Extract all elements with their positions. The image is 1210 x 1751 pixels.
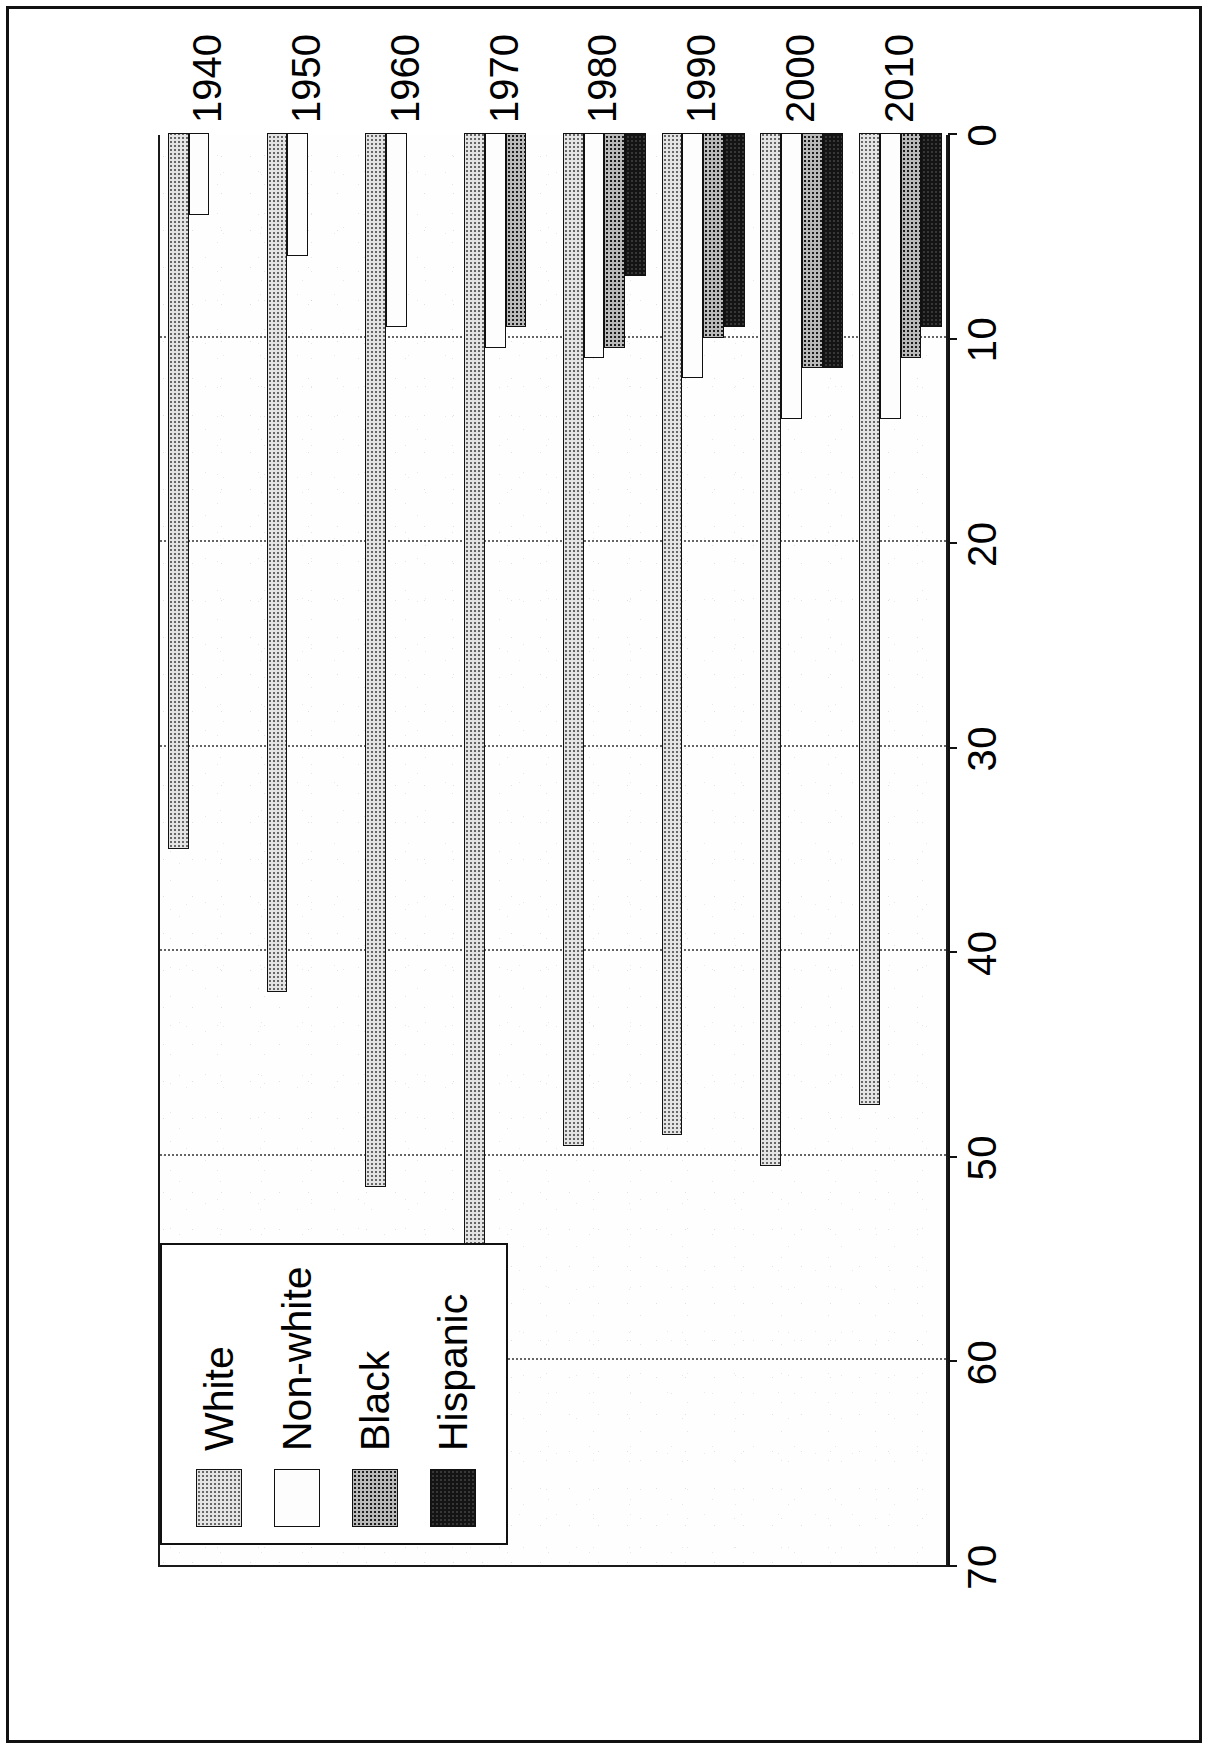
value-tick-70 xyxy=(948,1565,957,1567)
legend-row-hispanic[interactable]: Hispanic xyxy=(414,1261,492,1527)
bar-1990-hispanic xyxy=(724,133,745,327)
bar-2000-white xyxy=(760,133,781,1166)
legend-swatch-icon-white xyxy=(196,1469,242,1527)
value-tick-60 xyxy=(948,1360,957,1362)
bar-1950-white xyxy=(267,133,288,992)
bar-2000-non-white xyxy=(781,133,802,419)
rotated-figure-stage: 706050403020100 194019501960197019801990… xyxy=(134,55,1074,1695)
bar-1970-black xyxy=(506,133,527,327)
category-label-1980: 1980 xyxy=(582,34,622,123)
bar-1980-non-white xyxy=(584,133,605,358)
value-axis-line xyxy=(948,135,950,1567)
scanned-page-frame: 706050403020100 194019501960197019801990… xyxy=(6,6,1202,1743)
value-tick-label-60: 60 xyxy=(962,1339,1002,1385)
bar-2010-hispanic xyxy=(921,133,942,327)
bar-2010-non-white xyxy=(880,133,901,419)
value-tick-30 xyxy=(948,746,957,748)
value-tick-20 xyxy=(948,542,957,544)
legend-label-black: Black xyxy=(355,1350,396,1450)
bar-1990-white xyxy=(662,133,683,1135)
legend-row-white[interactable]: White xyxy=(180,1261,258,1527)
bar-1970-white xyxy=(464,133,485,1258)
legend-label-non-white: Non-white xyxy=(277,1266,318,1451)
bar-1990-non-white xyxy=(682,133,703,378)
category-label-2010: 2010 xyxy=(879,34,919,123)
legend-label-hispanic: Hispanic xyxy=(433,1293,474,1450)
legend-row-black[interactable]: Black xyxy=(336,1261,414,1527)
category-label-1970: 1970 xyxy=(484,34,524,123)
bar-1950-non-white xyxy=(287,133,308,256)
bar-1980-white xyxy=(563,133,584,1146)
value-tick-label-10: 10 xyxy=(962,316,1002,362)
bar-1990-black xyxy=(703,133,724,338)
value-tick-label-40: 40 xyxy=(962,930,1002,976)
bar-2000-black xyxy=(802,133,823,368)
value-tick-label-0: 0 xyxy=(962,123,1002,146)
bar-2010-black xyxy=(901,133,922,358)
value-tick-0 xyxy=(948,133,957,135)
value-tick-label-30: 30 xyxy=(962,725,1002,771)
value-tick-label-20: 20 xyxy=(962,521,1002,567)
value-tick-40 xyxy=(948,951,957,953)
legend-swatch-icon-black xyxy=(352,1469,398,1527)
category-label-2000: 2000 xyxy=(780,34,820,123)
category-label-1950: 1950 xyxy=(286,34,326,123)
legend-swatch-icon-non-white xyxy=(274,1469,320,1527)
legend-label-white: White xyxy=(199,1346,240,1451)
bar-1970-non-white xyxy=(485,133,506,348)
value-tick-label-50: 50 xyxy=(962,1135,1002,1181)
bar-1960-white xyxy=(365,133,386,1187)
bar-2010-white xyxy=(859,133,880,1105)
bar-chart-figure: 706050403020100 194019501960197019801990… xyxy=(134,55,1074,1695)
value-tick-50 xyxy=(948,1155,957,1157)
chart-legend: WhiteNon-whiteBlackHispanic xyxy=(160,1243,508,1545)
gridline-50 xyxy=(160,1153,946,1155)
bar-1980-black xyxy=(604,133,625,348)
legend-swatch-icon-hispanic xyxy=(430,1469,476,1527)
category-label-1940: 1940 xyxy=(187,34,227,123)
bar-1960-non-white xyxy=(386,133,407,327)
legend-row-non-white[interactable]: Non-white xyxy=(258,1261,336,1527)
value-tick-label-70: 70 xyxy=(962,1544,1002,1590)
bar-1940-white xyxy=(168,133,189,849)
category-label-1960: 1960 xyxy=(385,34,425,123)
bar-1980-hispanic xyxy=(625,133,646,276)
bar-1940-non-white xyxy=(189,133,210,215)
bar-2000-hispanic xyxy=(823,133,844,368)
category-label-1990: 1990 xyxy=(681,34,721,123)
value-tick-10 xyxy=(948,337,957,339)
